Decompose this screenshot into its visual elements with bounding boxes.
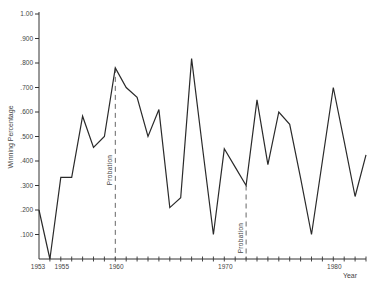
x-tick-label: 1955: [55, 263, 70, 270]
probation-annotations: ProbationProbation: [106, 68, 246, 259]
y-tick-label: .300: [20, 182, 33, 189]
y-tick-label: 1.00: [20, 10, 33, 17]
y-tick-label: .700: [20, 84, 33, 91]
y-tick-label: .400: [20, 157, 33, 164]
y-tick-label: .100: [20, 231, 33, 238]
x-tick-label: 1953: [31, 263, 46, 270]
y-axis: .100.200.300.400.500.600.700.800.9001.00: [20, 10, 39, 259]
winning-percentage-line: [39, 59, 366, 259]
line-chart: .100.200.300.400.500.600.700.800.9001.00…: [0, 0, 372, 285]
probation-label: Probation: [237, 223, 244, 254]
y-tick-label: .900: [20, 35, 33, 42]
y-tick-label: .200: [20, 206, 33, 213]
x-axis: 19531955196019701980: [31, 257, 366, 271]
x-tick-label: 1980: [327, 263, 342, 270]
x-axis-title: Year: [343, 272, 358, 279]
x-tick-label: 1960: [109, 263, 124, 270]
y-tick-label: .500: [20, 133, 33, 140]
probation-label: Probation: [106, 155, 113, 186]
y-axis-title: Winning Percentage: [7, 105, 15, 168]
y-tick-label: .800: [20, 59, 33, 66]
y-tick-label: .600: [20, 108, 33, 115]
x-tick-label: 1970: [218, 263, 233, 270]
